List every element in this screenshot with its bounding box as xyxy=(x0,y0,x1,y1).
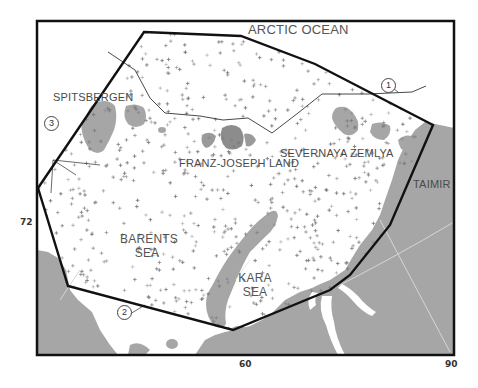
franz-joseph-land xyxy=(202,133,217,148)
longitude-tick-90: 90 xyxy=(445,359,458,369)
kola-peninsula-land xyxy=(37,250,118,355)
label-arctic-ocean: ARCTIC OCEAN xyxy=(248,24,349,36)
longitude-tick-60: 60 xyxy=(239,359,252,369)
latitude-tick-72: 72 xyxy=(20,217,33,227)
label-spitsbergen: SPITSBERGEN xyxy=(53,91,133,103)
label-taimir: TAIMIR xyxy=(413,178,451,190)
map-canvas xyxy=(0,0,478,388)
boundary-line-1 xyxy=(108,52,426,133)
novaya-zemlya xyxy=(206,211,278,328)
spitsbergen-land xyxy=(82,101,117,153)
marker-1: 1 xyxy=(381,78,396,93)
label-barents-sea: BARENTS SEA xyxy=(120,232,174,260)
marker-3: 3 xyxy=(44,116,59,131)
label-severnaya-zemlya: SEVERNAYA ZEMLYA xyxy=(280,147,394,159)
marker-2: 2 xyxy=(117,305,132,320)
label-kara-sea: KARA SEA xyxy=(236,271,274,299)
white-sea-islands xyxy=(128,343,150,355)
